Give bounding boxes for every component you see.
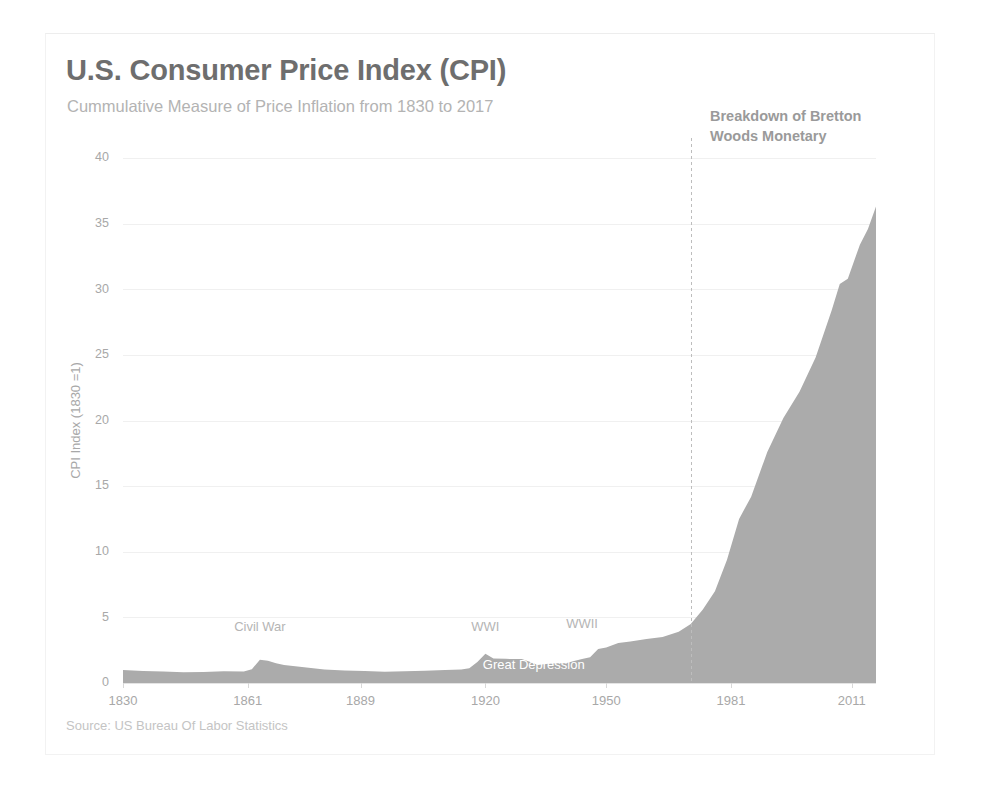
x-tick-label-1920: 1920: [471, 693, 500, 708]
cpi-area-chart: 0510152025303540 18301861188919201950198…: [46, 34, 936, 756]
x-tick-label-1830: 1830: [109, 693, 138, 708]
x-tick-label-1981: 1981: [717, 693, 746, 708]
annotation-wwi: WWI: [471, 619, 499, 634]
y-tick-label-20: 20: [95, 413, 109, 427]
cpi-area-series: [123, 207, 876, 683]
x-tick-label-1950: 1950: [592, 693, 621, 708]
y-axis-title-text: CPI Index (1830 =1): [68, 362, 83, 479]
y-axis-title: CPI Index (1830 =1): [68, 362, 83, 479]
y-tick-label-0: 0: [102, 675, 109, 689]
chart-annotations: Civil WarWWIWWIIGreat Depression: [234, 616, 598, 672]
chart-screenshot: U.S. Consumer Price Index (CPI) Cummulat…: [0, 0, 983, 801]
y-tick-label-10: 10: [95, 544, 109, 558]
x-tick-label-1861: 1861: [233, 693, 262, 708]
y-tick-label-40: 40: [95, 150, 109, 164]
source-note: Source: US Bureau Of Labor Statistics: [66, 718, 288, 733]
y-tick-label-25: 25: [95, 347, 109, 361]
x-tick-label-2011: 2011: [838, 693, 866, 708]
y-axis-tick-labels: 0510152025303540: [95, 150, 109, 689]
y-tick-label-15: 15: [95, 478, 109, 492]
annotation-wwii: WWII: [566, 616, 598, 631]
chart-card: U.S. Consumer Price Index (CPI) Cummulat…: [45, 33, 935, 755]
annotation-civil-war: Civil War: [234, 619, 286, 634]
y-tick-label-5: 5: [102, 610, 109, 624]
x-axis-tick-labels: 1830186118891920195019812011: [109, 693, 866, 708]
x-tick-label-1889: 1889: [346, 693, 375, 708]
y-tick-label-35: 35: [95, 216, 109, 230]
area-series-path: [123, 207, 876, 683]
y-tick-label-30: 30: [95, 282, 109, 296]
annotation-great-depression: Great Depression: [483, 657, 585, 672]
